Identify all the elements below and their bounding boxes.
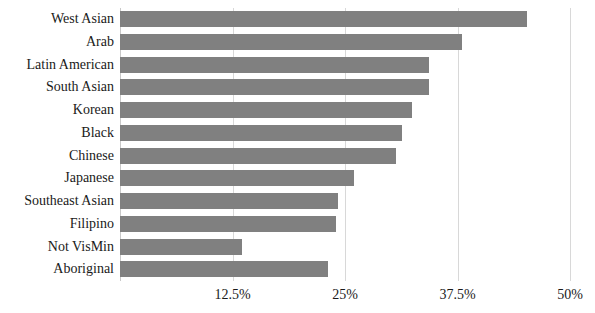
- bar-row: [120, 99, 570, 121]
- bar-row: [120, 76, 570, 98]
- bar-row: [120, 190, 570, 212]
- category-axis-labels: West AsianArabLatin AmericanSouth AsianK…: [0, 8, 114, 281]
- bar-row: [120, 213, 570, 235]
- bar: [120, 57, 429, 73]
- bar-row: [120, 8, 570, 30]
- bar-row: [120, 122, 570, 144]
- category-label: Chinese: [0, 145, 114, 167]
- x-tick-label: 37.5%: [439, 286, 475, 304]
- bar: [120, 34, 462, 50]
- category-label: Southeast Asian: [0, 190, 114, 212]
- category-label: Arab: [0, 31, 114, 53]
- bar-row: [120, 236, 570, 258]
- bar-chart: West AsianArabLatin AmericanSouth AsianK…: [0, 0, 595, 313]
- bar: [120, 102, 412, 118]
- x-tick-label: 12.5%: [214, 286, 250, 304]
- bar-row: [120, 54, 570, 76]
- bar: [120, 11, 527, 27]
- category-label: Black: [0, 122, 114, 144]
- category-label: West Asian: [0, 8, 114, 30]
- gridline: [570, 8, 571, 281]
- bar: [120, 148, 396, 164]
- bar-row: [120, 145, 570, 167]
- bar: [120, 79, 429, 95]
- bar: [120, 239, 242, 255]
- bar: [120, 125, 402, 141]
- bar: [120, 216, 336, 232]
- bar-series: [120, 8, 570, 281]
- bar: [120, 261, 328, 277]
- category-label: Latin American: [0, 54, 114, 76]
- x-axis-tick-labels: 12.5%25%37.5%50%: [0, 286, 595, 310]
- category-label: Not VisMin: [0, 236, 114, 258]
- category-label: Korean: [0, 99, 114, 121]
- bar-row: [120, 31, 570, 53]
- x-tick-label: 50%: [557, 286, 583, 304]
- category-label: Filipino: [0, 213, 114, 235]
- bar-row: [120, 167, 570, 189]
- category-label: Aboriginal: [0, 258, 114, 280]
- plot-area: [120, 8, 570, 281]
- category-label: Japanese: [0, 167, 114, 189]
- bar-row: [120, 258, 570, 280]
- bar: [120, 193, 338, 209]
- category-label: South Asian: [0, 76, 114, 98]
- bar: [120, 170, 354, 186]
- x-tick-label: 25%: [332, 286, 358, 304]
